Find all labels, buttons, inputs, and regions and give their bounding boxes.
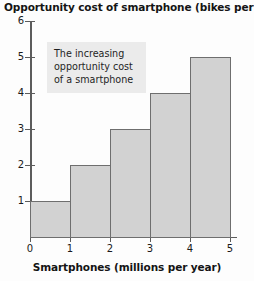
y-tick-label-2: 2 [10,160,24,170]
x-tick-label-4: 4 [180,244,200,254]
bar-0-1 [30,201,71,238]
x-tick-label-0: 0 [20,244,40,254]
annotation-box: The increasing opportunity cost of a sma… [47,42,146,93]
y-tick-label-5: 5 [10,52,24,62]
y-tick-5 [25,57,35,58]
opportunity-cost-bar-chart: Opportunity cost of smartphone (bikes pe… [0,0,254,281]
bar-1-2 [70,165,111,238]
bar-3-4 [150,93,191,238]
y-tick-label-6: 6 [10,16,24,26]
y-tick-3 [25,129,35,130]
y-tick-4 [25,93,35,94]
y-tick-6 [25,21,35,22]
x-axis-title: Smartphones (millions per year) [0,261,254,273]
y-tick-label-1: 1 [10,196,24,206]
y-tick-label-3: 3 [10,124,24,134]
y-tick-label-4: 4 [10,88,24,98]
annotation-line-3: of a smartphone [54,73,139,86]
x-tick-label-1: 1 [60,244,80,254]
chart-title: Opportunity cost of smartphone (bikes pe… [4,1,252,13]
x-tick-label-2: 2 [100,244,120,254]
bar-4-5 [190,57,231,238]
annotation-line-1: The increasing [54,47,139,60]
annotation-line-2: opportunity cost [54,60,139,73]
y-tick-2 [25,165,35,166]
x-tick-label-3: 3 [140,244,160,254]
x-tick-label-5: 5 [220,244,240,254]
y-tick-labels: 1 2 3 4 5 6 [5,0,24,281]
bar-2-3 [110,129,151,238]
